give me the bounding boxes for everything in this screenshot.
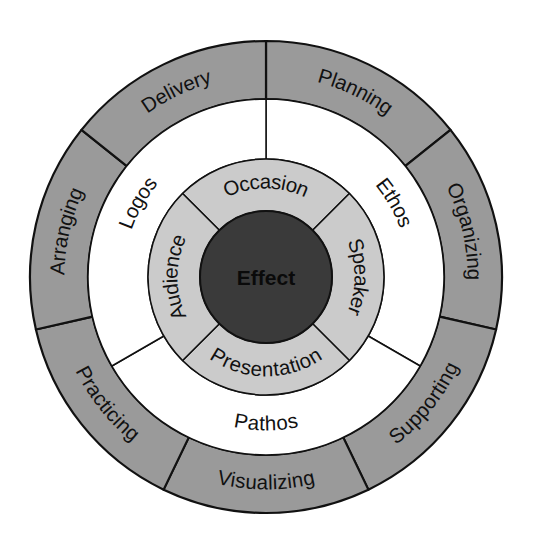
core-effect-circle: Effect [200, 211, 332, 343]
rhetoric-wheel-diagram: Effect PlanningOrganizingSupportingVisua… [0, 0, 533, 550]
middle-label-pathos: Pathos [233, 408, 300, 434]
core-label-effect: Effect [237, 266, 295, 289]
rhetoric-wheel-svg: Effect PlanningOrganizingSupportingVisua… [0, 0, 533, 550]
